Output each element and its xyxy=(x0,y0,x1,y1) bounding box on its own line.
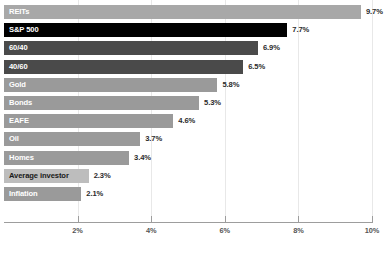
bar-value-label: 7.7% xyxy=(292,23,309,37)
bar-category-label: Homes xyxy=(9,151,34,165)
bar-value-label: 6.9% xyxy=(263,41,280,55)
bar-row[interactable]: Inflation2.1% xyxy=(4,185,380,203)
bar[interactable] xyxy=(4,114,173,128)
bar-value-label: 4.6% xyxy=(178,114,195,128)
bar[interactable] xyxy=(4,23,287,37)
bar-category-label: Bonds xyxy=(9,96,32,110)
x-axis-line xyxy=(4,222,373,223)
bar-chart: REITs9.7%S&P 5007.7%60/406.9%40/606.5%Go… xyxy=(0,0,384,254)
x-axis-tick-label: 4% xyxy=(146,226,156,235)
bar-value-label: 3.7% xyxy=(145,132,162,146)
bar-category-label: Average investor xyxy=(9,169,69,183)
x-axis-tick xyxy=(78,216,79,223)
x-axis-tick xyxy=(298,216,299,223)
bar[interactable] xyxy=(4,132,140,146)
bar-row[interactable]: Homes3.4% xyxy=(4,149,380,167)
bar-value-label: 5.8% xyxy=(222,78,239,92)
bar-category-label: EAFE xyxy=(9,114,29,128)
x-axis-tick xyxy=(225,216,226,223)
bar-category-label: Gold xyxy=(9,78,26,92)
bar-value-label: 6.5% xyxy=(248,60,265,74)
bar-row[interactable]: REITs9.7% xyxy=(4,3,380,21)
bar-row[interactable]: 60/406.9% xyxy=(4,39,380,57)
x-axis-tick-label: 6% xyxy=(220,226,230,235)
plot-area: REITs9.7%S&P 5007.7%60/406.9%40/606.5%Go… xyxy=(0,0,384,216)
bar-row[interactable]: Bonds5.3% xyxy=(4,94,380,112)
bar[interactable] xyxy=(4,96,199,110)
bar-row[interactable]: 40/606.5% xyxy=(4,58,380,76)
x-axis-tick xyxy=(372,216,373,223)
bar-category-label: 40/60 xyxy=(9,60,28,74)
bar[interactable] xyxy=(4,5,361,19)
bar-row[interactable]: S&P 5007.7% xyxy=(4,21,380,39)
bar-value-label: 2.3% xyxy=(94,169,111,183)
bar-row[interactable]: EAFE4.6% xyxy=(4,112,380,130)
bar[interactable] xyxy=(4,41,258,55)
bar-value-label: 2.1% xyxy=(86,187,103,201)
bar-category-label: 60/40 xyxy=(9,41,28,55)
x-axis-tick-label: 8% xyxy=(293,226,303,235)
bar-category-label: REITs xyxy=(9,5,29,19)
x-axis-tick-label: 10% xyxy=(365,226,380,235)
bar-category-label: Oil xyxy=(9,132,19,146)
bar[interactable] xyxy=(4,60,243,74)
bar[interactable] xyxy=(4,78,217,92)
bar-value-label: 9.7% xyxy=(366,5,383,19)
x-axis-tick-label: 2% xyxy=(72,226,82,235)
bar-category-label: Inflation xyxy=(9,187,38,201)
bar-value-label: 3.4% xyxy=(134,151,151,165)
bar-value-label: 5.3% xyxy=(204,96,221,110)
bar-row[interactable]: Oil3.7% xyxy=(4,130,380,148)
bar-category-label: S&P 500 xyxy=(9,23,39,37)
x-axis-tick xyxy=(151,216,152,223)
bar-row[interactable]: Gold5.8% xyxy=(4,76,380,94)
bar-row[interactable]: Average investor2.3% xyxy=(4,167,380,185)
